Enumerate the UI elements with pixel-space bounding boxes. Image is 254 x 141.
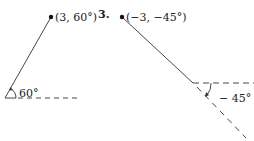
right-angle-label: − 45° <box>219 93 251 104</box>
right-polar-diagram <box>120 15 254 138</box>
left-radius-line <box>5 17 51 98</box>
right-point-dot <box>120 15 124 19</box>
left-polar-diagram <box>5 15 78 98</box>
left-point-label: (3, 60°) <box>55 12 97 23</box>
right-angle-arc <box>207 83 211 95</box>
problem-number: 3. <box>98 9 109 20</box>
right-radius-line <box>122 17 193 83</box>
left-point-dot <box>49 15 53 19</box>
left-angle-label: 60° <box>19 88 39 99</box>
right-point-label: (−3, −45°) <box>126 12 187 23</box>
polar-coordinates-figure: (3, 60°) 60° 3. (−3, −45°) − 45° <box>0 0 254 141</box>
